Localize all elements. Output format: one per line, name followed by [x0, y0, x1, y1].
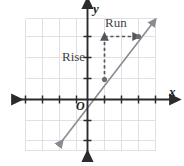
- coordinate-plane-svg: [0, 0, 184, 166]
- figure-background: [0, 0, 184, 166]
- run-label: Run: [105, 15, 127, 31]
- data-point-lower: [102, 77, 107, 82]
- coordinate-plane-figure: Rise Run x y O: [0, 0, 184, 166]
- rise-label: Rise: [62, 49, 85, 65]
- origin-label: O: [76, 99, 85, 114]
- data-point-upper: [136, 34, 141, 39]
- y-axis-label: y: [93, 1, 99, 17]
- x-axis-label: x: [169, 84, 176, 100]
